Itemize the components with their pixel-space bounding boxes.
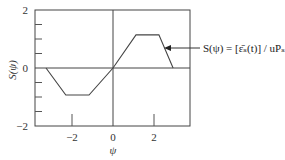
- x-tick-label: 2: [151, 131, 157, 143]
- x-tick-label: −2: [66, 131, 78, 143]
- annotation-label: S(ψ) = [ε̄ₛ(t)] / uPₛ: [203, 42, 285, 55]
- x-tick-labels: −202: [66, 131, 157, 143]
- y-tick-label: 0: [23, 62, 29, 74]
- x-axis-label: ψ: [110, 144, 117, 156]
- y-axis-label: S(ψ): [6, 60, 19, 80]
- y-tick-label: −2: [16, 120, 28, 132]
- y-tick-label: 2: [23, 4, 29, 16]
- chart: −202 −202 S(ψ) ψ S(ψ) = [ε̄ₛ(t)] / uPₛ: [0, 0, 285, 160]
- x-tick-label: 0: [110, 131, 116, 143]
- series-line: [46, 35, 173, 95]
- annotation: S(ψ) = [ε̄ₛ(t)] / uPₛ: [164, 42, 285, 55]
- y-tick-labels: −202: [16, 4, 28, 132]
